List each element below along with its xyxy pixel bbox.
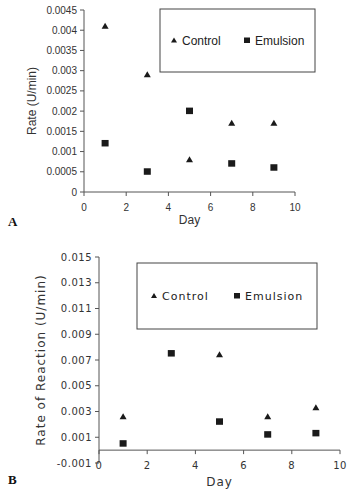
legend-label-control: Control bbox=[162, 290, 209, 303]
scatter-plot-b: -0.0010.0010.0030.0050.0070.0090.0110.01… bbox=[0, 240, 347, 493]
x-axis-title: Day bbox=[179, 213, 200, 227]
y-tick-label: 0.003 bbox=[52, 65, 77, 76]
y-axis-title: Rate (U/min) bbox=[25, 67, 39, 135]
y-tick-label: 0.0035 bbox=[46, 45, 77, 56]
legend: ControlEmulsion bbox=[137, 263, 317, 329]
x-tick-label: 10 bbox=[333, 460, 347, 471]
square-marker bbox=[168, 350, 175, 357]
square-icon bbox=[234, 293, 240, 299]
square-marker bbox=[186, 108, 193, 115]
x-tick-label: 4 bbox=[192, 460, 199, 471]
x-axis-title: Day bbox=[206, 475, 233, 489]
y-tick-label: 0.002 bbox=[52, 106, 77, 117]
triangle-marker bbox=[102, 23, 109, 29]
x-tick-label: 4 bbox=[166, 202, 172, 213]
y-tick-label: -0.001 bbox=[57, 458, 92, 469]
y-tick-label: 0.011 bbox=[61, 303, 92, 314]
series-control bbox=[120, 351, 320, 419]
square-marker bbox=[102, 140, 109, 147]
square-marker bbox=[270, 164, 277, 171]
y-axis-title: Rate of Reaction (U/min) bbox=[34, 274, 48, 445]
y-tick-label: 0.001 bbox=[52, 146, 77, 157]
legend-label-emulsion: Emulsion bbox=[245, 290, 303, 303]
chart-panel-b: -0.0010.0010.0030.0050.0070.0090.0110.01… bbox=[0, 240, 347, 493]
x-tick-label: 6 bbox=[240, 460, 247, 471]
y-tick-label: 0.0045 bbox=[46, 5, 77, 16]
y-tick-label: 0.0015 bbox=[46, 126, 77, 137]
x-tick-label: 2 bbox=[123, 202, 129, 213]
x-tick-label: 8 bbox=[250, 202, 256, 213]
triangle-marker bbox=[186, 156, 193, 162]
square-marker bbox=[228, 160, 235, 167]
y-tick-label: 0.0005 bbox=[46, 166, 77, 177]
y-tick-label: 0.003 bbox=[61, 406, 92, 417]
triangle-marker bbox=[144, 71, 151, 77]
y-tick-label: 0.009 bbox=[61, 329, 92, 340]
y-tick-label: 0.004 bbox=[52, 25, 77, 36]
square-marker bbox=[312, 430, 319, 437]
y-tick-label: 0.013 bbox=[61, 277, 92, 288]
y-tick-label: 0.001 bbox=[61, 432, 92, 443]
y-tick-label: 0.015 bbox=[61, 252, 92, 263]
series-emulsion bbox=[120, 350, 320, 447]
y-tick-label: 0.005 bbox=[61, 380, 92, 391]
chart-panel-a: 00.00050.0010.00150.0020.00250.0030.0035… bbox=[0, 0, 347, 240]
series-emulsion bbox=[102, 108, 278, 175]
triangle-marker bbox=[270, 120, 277, 126]
y-tick-label: 0.007 bbox=[61, 355, 92, 366]
x-tick-label: 10 bbox=[289, 202, 301, 213]
panel-label-a: A bbox=[8, 214, 17, 230]
legend-label-emulsion: Emulsion bbox=[255, 34, 304, 48]
triangle-marker bbox=[228, 120, 235, 126]
panel-label-b: B bbox=[8, 472, 17, 488]
x-tick-label: 6 bbox=[208, 202, 214, 213]
legend-label-control: Control bbox=[182, 34, 221, 48]
triangle-marker bbox=[216, 351, 223, 357]
square-marker bbox=[216, 418, 223, 425]
x-tick-label: 8 bbox=[288, 460, 295, 471]
scatter-plot-a: 00.00050.0010.00150.0020.00250.0030.0035… bbox=[0, 0, 347, 240]
legend: ControlEmulsion bbox=[160, 9, 315, 72]
triangle-marker bbox=[120, 413, 127, 419]
triangle-marker bbox=[312, 404, 319, 410]
x-tick-label: 0 bbox=[81, 202, 87, 213]
triangle-marker bbox=[264, 413, 271, 419]
x-tick-label: 0 bbox=[96, 460, 103, 471]
y-tick-label: 0.0025 bbox=[46, 85, 77, 96]
x-tick-label: 2 bbox=[144, 460, 151, 471]
square-icon bbox=[244, 38, 250, 44]
y-tick-label: 0 bbox=[71, 187, 77, 198]
square-marker bbox=[264, 431, 271, 438]
square-marker bbox=[144, 168, 151, 175]
square-marker bbox=[120, 440, 127, 447]
